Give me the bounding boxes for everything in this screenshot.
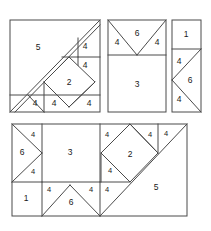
piece-label-2-bottom: 2 [128, 149, 133, 159]
piece-label-5-bottom: 5 [154, 182, 159, 192]
panel-top-left-square: 5 4 4 2 4 4 4 [10, 20, 100, 112]
piece-label-4-tl-b: 4 [83, 60, 88, 70]
piece-label-4-bm-b: 4 [89, 185, 93, 194]
piece-label-4-bl-a: 4 [31, 130, 35, 139]
piece-label-4-br-d: 4 [164, 129, 168, 138]
piece-label-4-br-e: 4 [108, 166, 112, 175]
panel-top-middle-rectangle: 4 6 4 3 [108, 20, 166, 112]
piece-label-4-br-c: 4 [148, 130, 152, 139]
piece-label-3-top-middle: 3 [135, 79, 140, 89]
piece-label-1-top-right: 1 [184, 29, 189, 39]
piece-label-4-tm-b: 4 [155, 37, 160, 47]
piece-label-4-tr-a: 4 [177, 56, 182, 66]
piece-label-4-tl-c: 4 [33, 98, 38, 108]
piece-label-1-bottom: 1 [24, 193, 29, 203]
tangram-canvas: 5 4 4 2 4 4 4 4 6 4 3 1 4 6 [0, 0, 211, 231]
piece-label-4-tr-b: 4 [177, 94, 182, 104]
piece-label-4-tm-a: 4 [115, 37, 120, 47]
piece-label-4-tl-d: 4 [52, 98, 57, 108]
piece-label-6-bottom-left: 6 [20, 147, 25, 157]
piece-label-4-bm-a: 4 [47, 185, 51, 194]
piece-label-4-tl-e: 4 [87, 98, 92, 108]
piece-label-5-top-left: 5 [36, 42, 41, 52]
piece-label-4-br-b: 4 [105, 130, 109, 139]
panel-bottom-rectangle: 4 6 4 3 1 4 6 4 4 4 2 4 4 4 5 [12, 124, 187, 216]
tangram-figure-root: 5 4 4 2 4 4 4 4 6 4 3 1 4 6 [0, 0, 211, 231]
panel-top-right-rectangle: 1 4 6 4 [172, 20, 201, 112]
piece-label-4-tl-a: 4 [83, 41, 88, 51]
piece-label-3-bottom: 3 [68, 147, 73, 157]
piece-label-6-top-middle: 6 [135, 28, 140, 38]
piece-label-4-br-a: 4 [105, 185, 109, 194]
piece-label-6-bottom-middle: 6 [69, 197, 74, 207]
piece-label-2-top-left: 2 [67, 77, 72, 87]
piece-label-6-top-right: 6 [188, 75, 193, 85]
piece-label-4-bl-b: 4 [31, 167, 35, 176]
